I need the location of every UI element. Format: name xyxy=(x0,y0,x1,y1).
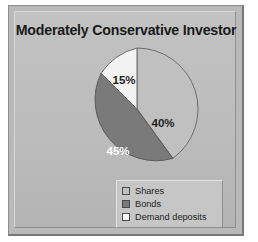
pie-chart: 40% 45% 15% xyxy=(74,46,200,172)
legend-swatch-icon-bonds xyxy=(122,200,130,208)
pie-label-bonds: 45% xyxy=(106,145,129,157)
figure-root: Moderately Conservative Investor 40% 45%… xyxy=(0,0,258,242)
legend-swatch-icon-demand-deposits xyxy=(122,213,130,221)
chart-legend: Shares Bonds Demand deposits xyxy=(116,180,223,228)
chart-panel: Moderately Conservative Investor 40% 45%… xyxy=(8,5,244,236)
legend-label-demand-deposits: Demand deposits xyxy=(135,212,207,223)
chart-title: Moderately Conservative Investor xyxy=(15,22,237,38)
legend-swatch-icon-shares xyxy=(122,187,130,195)
pie-label-shares: 40% xyxy=(151,117,174,129)
legend-item-bonds[interactable]: Bonds xyxy=(122,198,217,210)
pie-chart-svg: 40% 45% 15% xyxy=(74,46,200,172)
pie-label-demand-deposits: 15% xyxy=(112,74,135,86)
legend-label-bonds: Bonds xyxy=(135,199,161,210)
chart-plot-area: Moderately Conservative Investor 40% 45%… xyxy=(14,11,236,228)
legend-item-shares[interactable]: Shares xyxy=(122,185,217,197)
legend-item-demand-deposits[interactable]: Demand deposits xyxy=(122,211,217,223)
legend-label-shares: Shares xyxy=(135,186,164,197)
